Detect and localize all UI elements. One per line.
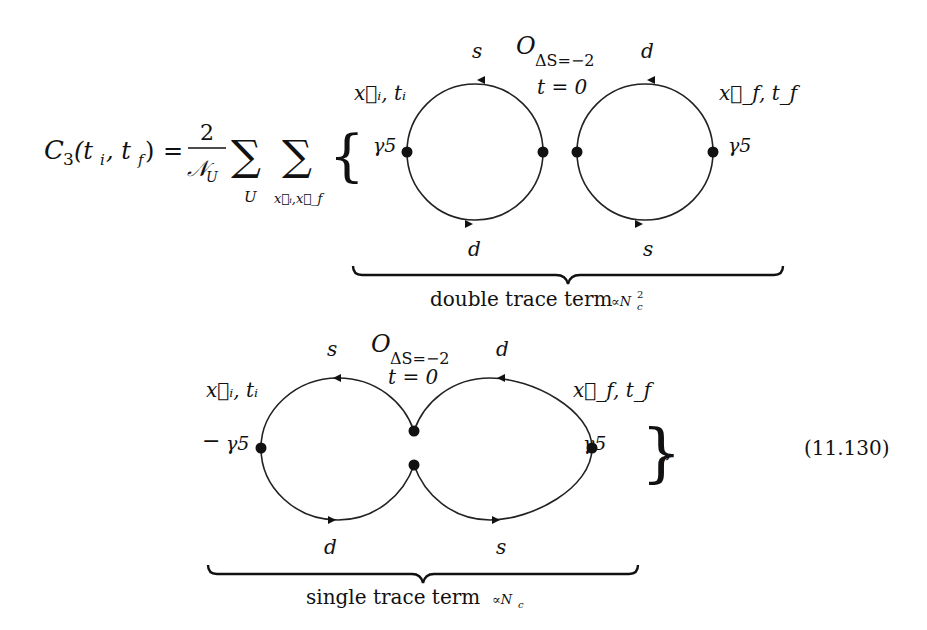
svg-text:O: O (516, 32, 536, 60)
svg-text:γ5: γ5 (728, 134, 751, 156)
equation-number: (11.130) (804, 436, 890, 460)
operator-vertex (409, 460, 420, 471)
svg-text:(t: (t (74, 137, 93, 165)
svg-text:O: O (371, 330, 391, 358)
arrow-left-icon (647, 76, 655, 84)
operator-vertex (572, 147, 583, 158)
arrow-left-icon (497, 374, 505, 382)
sum-symbol-2: ∑ (282, 131, 312, 180)
svg-text:c: c (637, 301, 643, 312)
close-brace: } (641, 416, 682, 490)
svg-text:s: s (327, 337, 337, 361)
svg-text:i: i (100, 151, 105, 169)
right-lower-propagator (414, 448, 592, 520)
arrow-left-icon (477, 76, 485, 84)
svg-text:x⃗ᵢ, tᵢ: x⃗ᵢ, tᵢ (206, 378, 258, 402)
svg-text:C: C (44, 135, 64, 165)
equation-figure: C 3 (t i , t f ) = 2 𝒩 U ∑ U ∑ x⃗ᵢ,x⃗_f … (0, 0, 927, 630)
svg-text:x⃗_f, t_f: x⃗_f, t_f (719, 81, 801, 105)
minus-sign: − (202, 428, 220, 453)
equals-sign: = (163, 137, 183, 165)
svg-text:t = 0: t = 0 (388, 365, 439, 389)
arrow-right-icon (635, 220, 643, 228)
sum-symbol-1: ∑ (231, 131, 261, 180)
arrow-right-icon (465, 220, 473, 228)
source-vertex (402, 147, 413, 158)
operator-vertex (409, 426, 420, 437)
svg-text:d: d (496, 337, 509, 361)
right-upper-propagator (414, 378, 592, 448)
svg-text:s: s (472, 39, 482, 63)
svg-text:s: s (496, 535, 506, 559)
sink-vertex (708, 147, 719, 158)
underbrace (208, 565, 638, 583)
svg-text:∝N: ∝N (492, 592, 513, 607)
svg-text:U: U (206, 169, 219, 185)
svg-text:ΔS=−2: ΔS=−2 (535, 51, 595, 70)
svg-text:2: 2 (637, 289, 643, 300)
svg-text:x⃗_f, t_f: x⃗_f, t_f (573, 378, 655, 402)
arrow-left-icon (333, 374, 341, 382)
svg-text:γ5: γ5 (373, 134, 396, 156)
svg-text:γ5: γ5 (226, 432, 249, 454)
svg-text:s: s (643, 237, 653, 261)
svg-text:single trace term: single trace term (306, 585, 480, 609)
svg-text:d: d (324, 535, 337, 559)
single-trace-diagram: − s O ΔS=−2 t = 0 d x⃗ᵢ, tᵢ x⃗_f, t_f γ5… (202, 330, 682, 610)
svg-text:x⃗ᵢ, tᵢ: x⃗ᵢ, tᵢ (354, 81, 406, 105)
svg-text:c: c (518, 599, 524, 610)
arrow-right-icon (328, 516, 336, 524)
double-trace-diagram: s O ΔS=−2 t = 0 d x⃗ᵢ, tᵢ x⃗_f, t_f γ5 γ… (353, 32, 801, 312)
svg-text:t = 0: t = 0 (537, 75, 588, 99)
left-quark-loop (407, 84, 543, 220)
sink-vertex (587, 443, 598, 454)
left-lower-propagator (261, 448, 414, 520)
svg-text:d: d (641, 39, 654, 63)
svg-text:d: d (468, 237, 481, 261)
equation-lhs: C 3 (t i , t f ) = 2 𝒩 U ∑ U ∑ x⃗ᵢ,x⃗_f … (44, 120, 365, 206)
right-quark-loop (577, 84, 713, 220)
source-vertex (256, 443, 267, 454)
underbrace (353, 266, 783, 284)
svg-text:x⃗ᵢ,x⃗_f: x⃗ᵢ,x⃗_f (274, 191, 325, 206)
operator-vertex (538, 147, 549, 158)
svg-text:, t: , t (106, 137, 131, 165)
arrow-right-icon (492, 516, 500, 524)
fraction-numerator: 2 (200, 120, 214, 145)
svg-text:3: 3 (63, 149, 74, 169)
svg-text:,: , (665, 438, 672, 463)
svg-text:∝N: ∝N (611, 294, 632, 309)
svg-text:): ) (145, 137, 154, 165)
svg-text:double trace term: double trace term (430, 287, 612, 311)
open-brace: { (329, 123, 365, 188)
svg-text:U: U (244, 188, 258, 206)
